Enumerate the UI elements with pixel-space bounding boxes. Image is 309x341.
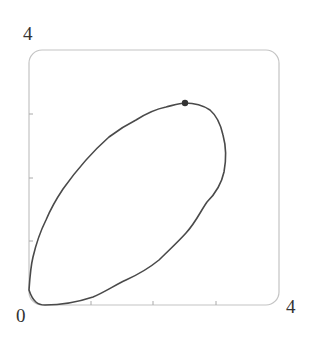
chart-svg	[0, 0, 309, 341]
x-max-label: 4	[286, 297, 296, 316]
plot-frame	[29, 50, 279, 305]
loop-curve	[29, 103, 226, 305]
origin-label: 0	[16, 306, 26, 325]
y-max-label: 4	[23, 24, 33, 43]
highlight-point	[182, 100, 188, 106]
